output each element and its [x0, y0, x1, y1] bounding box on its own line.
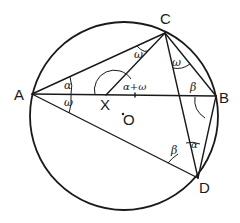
angle-label-CBA: β: [189, 81, 196, 94]
angle-label-CDB: α: [191, 139, 198, 150]
angle-label-DCB: ω: [172, 56, 181, 69]
label-A: A: [14, 86, 24, 103]
angle-label-ACX: ω: [134, 48, 143, 61]
geometry-diagram: A B C D X O α ω ω ω α+ω β β α: [0, 0, 240, 223]
segment-CD: [165, 33, 198, 178]
angle-label-CAB: α: [64, 79, 72, 92]
segment-BD: [198, 96, 216, 178]
angle-arc-B-beta: [195, 97, 205, 118]
label-B: B: [219, 89, 229, 106]
angle-label-ADC: β: [170, 144, 177, 157]
angle-label-CXB: α+ω: [123, 81, 146, 92]
label-C: C: [160, 10, 171, 27]
angle-label-BAD: ω: [64, 96, 73, 109]
label-D: D: [199, 179, 210, 196]
label-X: X: [100, 96, 110, 113]
segment-AD: [32, 94, 198, 178]
label-O: O: [123, 111, 135, 128]
segment-AB: [32, 94, 216, 96]
